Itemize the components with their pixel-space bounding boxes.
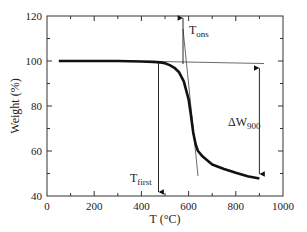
y-axis-label: Weight (%) — [8, 78, 22, 133]
t-ons-label: Tons — [189, 23, 209, 39]
t-first-label: Tfirst — [130, 171, 152, 187]
x-tick-labels: 0 200 400 600 800 1000 — [44, 200, 294, 212]
y-tick-40: 40 — [31, 190, 43, 202]
x-tick-600: 600 — [180, 200, 197, 212]
x-axis-label: T (°C) — [150, 212, 181, 226]
baseline-line — [160, 62, 264, 64]
dw900-label: ΔW900 — [228, 115, 261, 131]
x-tick-800: 800 — [228, 200, 245, 212]
plot-frame — [47, 16, 283, 196]
y-tick-100: 100 — [26, 55, 43, 67]
x-tick-0: 0 — [44, 200, 50, 212]
tick-marks — [47, 16, 283, 196]
tangent-line — [183, 29, 198, 176]
y-tick-labels: 40 60 80 100 120 — [26, 10, 43, 202]
x-tick-200: 200 — [86, 200, 103, 212]
x-tick-1000: 1000 — [272, 200, 295, 212]
y-tick-120: 120 — [26, 10, 43, 22]
y-tick-80: 80 — [31, 100, 43, 112]
y-tick-60: 60 — [31, 145, 43, 157]
tga-chart: 0 200 400 600 800 1000 40 60 80 100 120 … — [0, 0, 307, 232]
x-tick-400: 400 — [133, 200, 150, 212]
